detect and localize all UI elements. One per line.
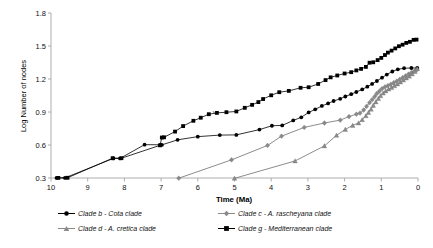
y-tick-label: 1.5 xyxy=(36,42,46,51)
data-point-clade_g xyxy=(158,143,162,147)
data-point-clade_g xyxy=(256,100,260,104)
data-point-clade_g xyxy=(269,93,273,97)
data-point-clade_g xyxy=(354,69,358,73)
data-point-clade_g xyxy=(379,56,383,60)
legend-label-clade-d: Clade d - A. cretica clade xyxy=(78,224,156,233)
data-point-clade_d xyxy=(343,127,348,131)
x-tick-label: 6 xyxy=(196,183,200,192)
data-point-clade_b xyxy=(218,133,222,137)
data-point-clade_g xyxy=(316,82,320,86)
data-point-clade_b xyxy=(360,88,364,92)
data-point-clade_c xyxy=(347,114,351,119)
data-series-group xyxy=(55,38,420,181)
data-point-clade_g xyxy=(287,89,291,93)
data-point-clade_g xyxy=(376,58,380,62)
data-point-clade_g xyxy=(162,135,166,139)
data-point-clade_g xyxy=(359,67,363,71)
data-point-clade_g xyxy=(66,176,70,180)
data-point-clade_d xyxy=(293,159,298,163)
data-point-clade_d xyxy=(350,123,355,127)
series-clade_b xyxy=(55,66,420,180)
data-point-clade_b xyxy=(396,67,400,71)
y-tick-label: 1.2 xyxy=(36,75,46,84)
chart-legend: Clade b - Cota clade Clade c - A. rasche… xyxy=(58,206,388,240)
x-tick-label: 1 xyxy=(379,183,383,192)
legend-key-diamond-icon xyxy=(218,209,235,218)
data-point-clade_b xyxy=(307,111,311,115)
data-point-clade_g xyxy=(415,38,419,42)
y-tick-label: 0.6 xyxy=(36,141,46,150)
data-point-clade_g xyxy=(181,124,185,128)
data-point-clade_g xyxy=(329,75,333,79)
data-point-clade_g xyxy=(397,44,401,48)
data-point-clade_c xyxy=(302,125,306,130)
x-axis-title: Time (Ma) xyxy=(216,195,253,204)
legend-key-circle-icon xyxy=(58,209,75,218)
data-point-clade_b xyxy=(402,66,406,70)
data-point-clade_b xyxy=(176,138,180,142)
data-point-clade_b xyxy=(326,102,330,106)
data-point-clade_c xyxy=(229,157,233,162)
lineage-through-time-chart: 0.30.60.91.21.51.8109876543210 v Time (M… xyxy=(0,0,433,248)
data-point-clade_g xyxy=(225,110,229,114)
data-point-clade_g xyxy=(277,90,281,94)
x-tick-label: 3 xyxy=(306,183,310,192)
data-point-clade_g xyxy=(371,60,375,64)
data-point-clade_b xyxy=(385,73,389,77)
chart-annotations: v xyxy=(213,109,216,115)
legend-label-clade-b: Clade b - Cota clade xyxy=(78,209,142,218)
data-point-clade_g xyxy=(191,119,195,123)
data-point-clade_d xyxy=(334,133,339,137)
data-point-clade_b xyxy=(365,85,369,89)
data-point-clade_g xyxy=(261,97,265,101)
data-point-clade_g xyxy=(390,49,394,53)
x-tick-label: 2 xyxy=(343,183,347,192)
data-point-clade_c xyxy=(279,134,283,139)
data-point-clade_b xyxy=(313,107,317,111)
data-point-clade_g xyxy=(324,78,328,82)
data-point-clade_b xyxy=(143,143,147,147)
data-point-clade_b xyxy=(354,90,358,94)
series-clade_c xyxy=(177,67,420,180)
x-tick-label: 10 xyxy=(47,183,55,192)
legend-label-clade-c: Clade c - A. rascheyana clade xyxy=(238,209,331,218)
x-tick-label: 7 xyxy=(159,183,163,192)
data-point-clade_b xyxy=(270,124,274,128)
data-point-clade_b xyxy=(375,79,379,83)
data-point-clade_g xyxy=(335,74,339,78)
data-point-clade_c xyxy=(354,112,358,117)
data-point-clade_g xyxy=(349,70,353,74)
data-point-clade_b xyxy=(332,99,336,103)
data-point-clade_b xyxy=(409,66,413,70)
data-point-clade_g xyxy=(408,40,412,44)
y-tick-label: 0.9 xyxy=(36,108,46,117)
data-point-clade_g xyxy=(401,43,405,47)
y-tick-label: 0.3 xyxy=(36,174,46,183)
data-point-clade_b xyxy=(258,128,262,132)
y-tick-label: 1.8 xyxy=(36,9,46,18)
legend-key-triangle-icon xyxy=(58,224,75,233)
data-point-clade_g xyxy=(234,110,238,114)
data-point-clade_b xyxy=(196,135,200,139)
data-point-clade_g xyxy=(368,61,372,65)
legend-item-clade-g[interactable]: Clade g - Mediterranean clade xyxy=(218,224,388,233)
data-point-clade_g xyxy=(404,41,408,45)
legend-item-clade-d[interactable]: Clade d - A. cretica clade xyxy=(58,224,218,233)
data-point-clade_g xyxy=(307,85,311,89)
data-point-clade_g xyxy=(199,116,203,120)
data-point-clade_g xyxy=(343,72,347,76)
legend-key-square-icon xyxy=(218,224,235,233)
data-point-clade_g xyxy=(207,112,211,116)
data-point-clade_b xyxy=(234,133,238,137)
data-point-clade_b xyxy=(291,119,295,123)
data-point-clade_b xyxy=(343,95,347,99)
data-point-clade_d xyxy=(369,107,374,111)
data-point-clade_g xyxy=(364,65,368,69)
data-point-clade_b xyxy=(338,97,342,101)
data-point-clade_g xyxy=(299,86,303,90)
legend-item-clade-b[interactable]: Clade b - Cota clade xyxy=(58,209,218,218)
legend-item-clade-c[interactable]: Clade c - A. rascheyana clade xyxy=(218,209,388,218)
x-tick-label: 0 xyxy=(416,183,420,192)
x-tick-label: 5 xyxy=(232,183,236,192)
data-point-clade_c xyxy=(322,121,326,126)
